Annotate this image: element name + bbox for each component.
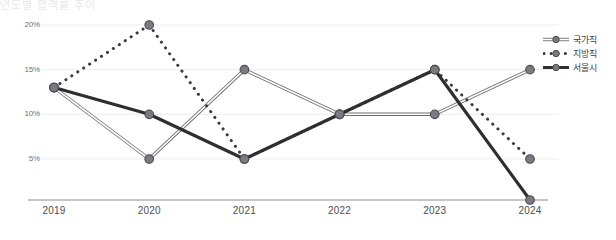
data-point-서울시-2019 bbox=[50, 83, 59, 92]
data-point-국가직-2023 bbox=[431, 110, 440, 119]
legend-swatch-icon bbox=[543, 34, 569, 45]
legend-swatch-icon bbox=[543, 62, 569, 73]
legend-label: 국가직 bbox=[573, 33, 596, 46]
legend-label: 지방직 bbox=[573, 47, 596, 60]
data-point-서울시-2021 bbox=[240, 155, 249, 164]
y-axis-tick-label: 20% bbox=[6, 20, 40, 29]
series-layer bbox=[54, 25, 530, 200]
series-line-서울시 bbox=[54, 70, 530, 200]
data-point-국가직-2020 bbox=[145, 155, 154, 164]
chart-container: 연도별 합격률 추이 20%15%10%5% 20192020202120222… bbox=[0, 0, 616, 240]
legend-swatch-icon bbox=[543, 48, 569, 59]
legend-item-지방직[interactable]: 지방직 bbox=[543, 47, 616, 60]
x-axis-tick-label-2023: 2023 bbox=[412, 205, 458, 216]
x-axis-tick-label-2020: 2020 bbox=[126, 205, 172, 216]
x-axis-tick-label-2022: 2022 bbox=[317, 205, 363, 216]
data-point-서울시-2023 bbox=[431, 65, 440, 74]
x-axis-tick-label-2019: 2019 bbox=[31, 205, 77, 216]
x-axis-tick-label-2021: 2021 bbox=[221, 205, 267, 216]
line-chart-plot bbox=[0, 0, 616, 240]
x-axis-tick-label-2024: 2024 bbox=[507, 205, 553, 216]
legend-item-국가직[interactable]: 국가직 bbox=[543, 33, 616, 46]
data-point-지방직-2020 bbox=[145, 21, 154, 30]
data-point-서울시-2024 bbox=[526, 196, 535, 205]
legend-label: 서울시 bbox=[573, 61, 596, 74]
chart-legend: 국가직지방직서울시 bbox=[543, 33, 616, 75]
data-point-국가직-2021 bbox=[240, 65, 249, 74]
data-point-서울시-2022 bbox=[335, 110, 344, 119]
y-axis-tick-label: 10% bbox=[6, 109, 40, 118]
y-axis-tick-label: 15% bbox=[6, 65, 40, 74]
data-point-서울시-2020 bbox=[145, 110, 154, 119]
y-axis-tick-label: 5% bbox=[6, 154, 40, 163]
legend-item-서울시[interactable]: 서울시 bbox=[543, 61, 616, 74]
data-point-지방직-2024 bbox=[526, 155, 535, 164]
marker-layer bbox=[50, 21, 535, 205]
data-point-국가직-2024 bbox=[526, 65, 535, 74]
